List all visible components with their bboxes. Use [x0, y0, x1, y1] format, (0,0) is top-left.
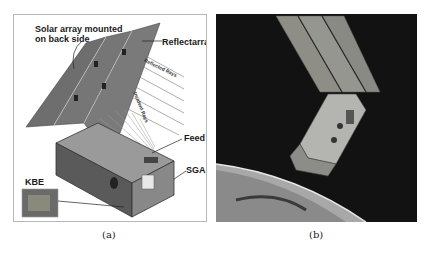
label-sga: SGA	[186, 165, 206, 175]
caption-subfigure-a: (a)	[102, 229, 116, 240]
label-solar-array-line2: on back side	[35, 34, 123, 44]
caption-subfigure-b: (b)	[309, 229, 323, 240]
subfigure-a-cubesat-diagram: Solar array mounted on back side Reflect…	[13, 14, 207, 222]
subfigure-b-cubesat-in-orbit	[216, 14, 417, 222]
label-feed: Feed	[184, 133, 205, 143]
label-solar-array: Solar array mounted on back side	[35, 24, 123, 44]
orbit-render	[216, 14, 417, 222]
label-kbe: KBE	[25, 177, 44, 187]
label-solar-array-line1: Solar array mounted	[35, 24, 123, 34]
label-reflectarray: Reflectarray	[162, 37, 207, 47]
cubesat-body	[56, 123, 174, 217]
